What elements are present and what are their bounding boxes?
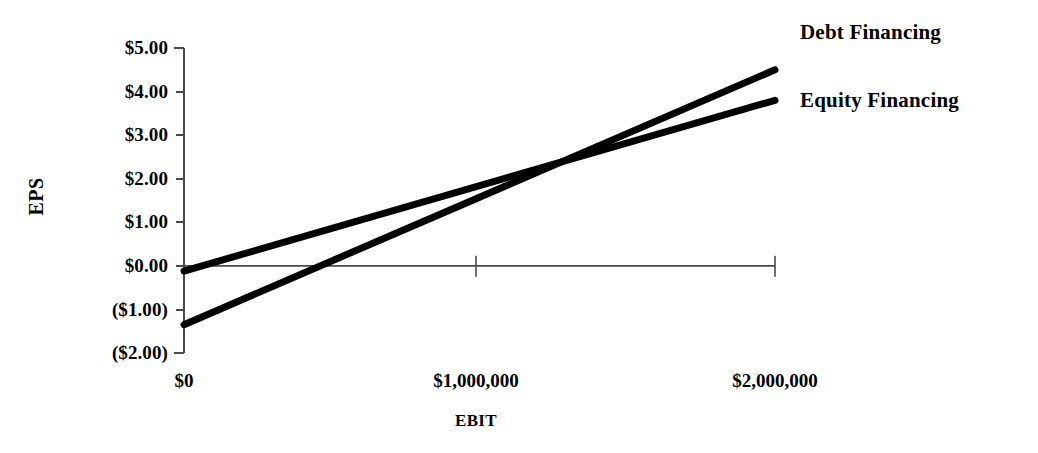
y-tick-label-5: $5.00 <box>48 38 168 57</box>
y-tick-label-wrap: $1.00 <box>48 212 168 232</box>
y-tick-label-4: $4.00 <box>48 82 168 101</box>
x-tick-label-2000000: $2,000,000 <box>732 371 818 390</box>
x-axis <box>184 256 775 277</box>
y-tick-label-3: $3.00 <box>48 125 168 144</box>
y-tick-label-wrap: $2.00 <box>48 169 168 189</box>
y-tick-label-wrap: $4.00 <box>48 82 168 102</box>
y-tick-label-wrap: ($1.00) <box>48 300 168 320</box>
y-tick-label-wrap: $3.00 <box>48 125 168 145</box>
x-tick-label-0: $0 <box>175 371 194 390</box>
y-tick-label-1: $1.00 <box>48 212 168 231</box>
x-tick-label-1000000: $1,000,000 <box>433 371 519 390</box>
y-tick-label-wrap: $0.00 <box>48 256 168 276</box>
x-axis-title: EBIT <box>455 411 497 431</box>
y-axis <box>174 48 184 353</box>
y-tick-marks <box>176 92 184 310</box>
y-tick-label-0: $0.00 <box>48 256 168 275</box>
series-label-debt-financing: Debt Financing <box>800 22 941 43</box>
series-label-equity-financing: Equity Financing <box>800 90 959 111</box>
ebit-eps-chart: $5.00 $4.00 $3.00 $2.00 $1.00 $0.00 ($1.… <box>0 0 1038 453</box>
series-line-debt <box>184 70 775 325</box>
series-line-equity <box>184 100 775 271</box>
y-axis-title: EPS <box>25 177 48 215</box>
y-tick-label-neg2: ($2.00) <box>48 343 168 362</box>
y-tick-label-2: $2.00 <box>48 169 168 188</box>
y-tick-label-wrap: $5.00 <box>48 38 168 58</box>
y-tick-label-wrap: ($2.00) <box>48 343 168 363</box>
y-tick-label-neg1: ($1.00) <box>48 300 168 319</box>
